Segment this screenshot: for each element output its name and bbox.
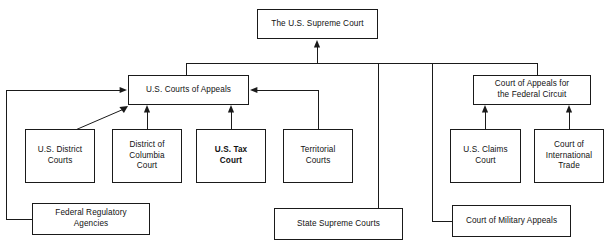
node-label-territorial-courts: TerritorialCourts: [298, 145, 339, 167]
node-territorial-courts[interactable]: TerritorialCourts: [283, 129, 353, 183]
node-label-supreme-court: The U.S. Supreme Court: [268, 19, 366, 30]
node-label-claims-court: U.S. ClaimsCourt: [460, 145, 510, 167]
node-military-appeals[interactable]: Court of Military Appeals: [452, 205, 571, 237]
arrowhead-circuit-from-claims: [482, 105, 488, 112]
node-label-international-trade: Court ofInternationalTrade: [543, 140, 595, 172]
arrowhead-appeals-from-dc: [144, 105, 150, 112]
edge-district-to-appeals: [73, 109, 124, 131]
node-label-courts-of-appeals: U.S. Courts of Appeals: [143, 85, 234, 96]
node-claims-court[interactable]: U.S. ClaimsCourt: [450, 129, 521, 183]
arrowhead-appeals-from-territorial: [250, 87, 257, 93]
node-state-supreme-courts[interactable]: State Supreme Courts: [274, 208, 403, 240]
node-international-trade[interactable]: Court ofInternationalTrade: [534, 129, 604, 183]
node-label-federal-circuit: Court of Appeals forthe Federal Circuit: [492, 79, 572, 101]
node-label-dc-court: District ofColumbiaCourt: [126, 140, 167, 172]
node-dc-court[interactable]: District ofColumbiaCourt: [112, 129, 182, 183]
node-label-federal-regulatory-agencies: Federal RegulatoryAgencies: [52, 208, 129, 230]
arrowhead-circuit-from-trade: [566, 105, 572, 112]
arrowhead-appeals-from-tax: [228, 105, 234, 112]
node-label-military-appeals: Court of Military Appeals: [463, 216, 560, 227]
arrowhead-appeals-from-regulatory: [120, 87, 127, 93]
node-federal-circuit[interactable]: Court of Appeals forthe Federal Circuit: [473, 75, 591, 105]
court-system-diagram: The U.S. Supreme Court U.S. Courts of Ap…: [0, 0, 616, 244]
node-tax-court[interactable]: U.S. TaxCourt: [196, 129, 266, 183]
node-label-tax-court: U.S. TaxCourt: [212, 145, 251, 167]
node-federal-regulatory-agencies[interactable]: Federal RegulatoryAgencies: [32, 203, 150, 235]
node-supreme-court[interactable]: The U.S. Supreme Court: [257, 9, 378, 39]
node-courts-of-appeals[interactable]: U.S. Courts of Appeals: [128, 75, 249, 105]
node-district-courts[interactable]: U.S. DistrictCourts: [25, 129, 95, 183]
edge-bus-drop-military: [432, 63, 452, 221]
node-label-state-supreme-courts: State Supreme Courts: [294, 219, 383, 230]
arrowhead-appeals-from-district: [119, 106, 128, 113]
arrowhead-supreme-court: [314, 40, 320, 47]
node-label-district-courts: U.S. DistrictCourts: [35, 145, 86, 167]
edge-territorial-to-appeals: [255, 90, 318, 129]
